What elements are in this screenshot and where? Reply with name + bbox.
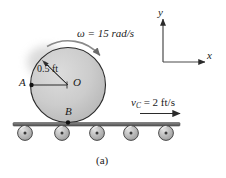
point-O-label: O — [73, 77, 81, 88]
roller — [159, 126, 174, 141]
point-A-label: A — [19, 77, 26, 88]
point-B-marker — [66, 120, 70, 124]
axis-x-label: x — [207, 50, 212, 61]
angular-velocity-label: ω = 15 rad/s — [77, 28, 134, 39]
axis-y-label: y — [158, 7, 163, 18]
roller — [55, 126, 70, 141]
velocity-label: vC = 2 ft/s — [131, 97, 175, 109]
point-A-marker — [29, 83, 33, 87]
coordinate-axes — [163, 19, 205, 62]
roller-group — [18, 126, 174, 141]
roller — [124, 126, 139, 141]
figure-caption: (a) — [96, 155, 108, 166]
roller — [18, 126, 33, 141]
roller — [90, 126, 105, 141]
radius-label: 0.5 ft — [37, 64, 58, 74]
velocity-value: = 2 ft/s — [141, 96, 175, 108]
point-B-label: B — [65, 106, 72, 117]
